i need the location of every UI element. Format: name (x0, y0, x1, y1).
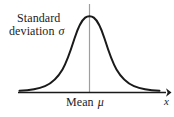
standard-deviation-line2: deviationσ (9, 25, 65, 38)
sigma-symbol: σ (59, 24, 65, 38)
standard-deviation-annotation: Standard deviationσ (9, 12, 65, 38)
mu-symbol: μ (98, 95, 104, 109)
mean-annotation: Meanμ (66, 96, 104, 109)
standard-deviation-word: deviation (9, 24, 55, 38)
x-axis-label: x (164, 95, 169, 108)
mean-word: Mean (66, 95, 94, 109)
normal-distribution-figure: Standard deviationσ Meanμ x (0, 0, 174, 117)
